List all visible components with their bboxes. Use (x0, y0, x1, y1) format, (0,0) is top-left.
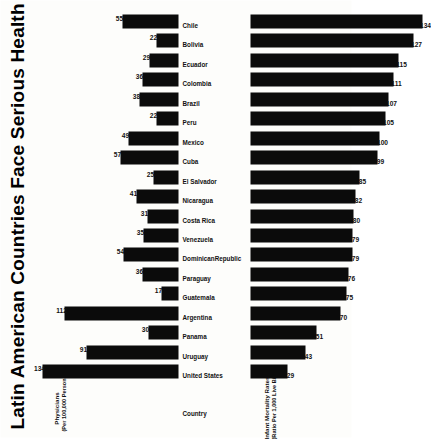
bar-value-label: 76 (347, 274, 354, 281)
bar-slot: 100 (250, 128, 430, 147)
bar-slot: 22 (36, 31, 178, 50)
category-slot: Mexico (180, 128, 246, 147)
category-label: Bolivia (182, 40, 203, 47)
bar-value-label: 36 (135, 72, 142, 79)
bar-slot: 112 (36, 303, 178, 322)
bar (148, 325, 178, 339)
bar (250, 150, 377, 164)
bar-slot: 115 (250, 50, 430, 69)
category-label: Ecuador (182, 60, 207, 67)
bar-value-label: 134 (420, 21, 431, 28)
bar-value-label: 17 (154, 286, 161, 293)
bar (42, 364, 178, 378)
bar-value-label: 49 (122, 131, 129, 138)
bar (156, 33, 178, 47)
bar (250, 189, 355, 203)
bar-slot: 76 (250, 264, 430, 283)
bar-value-label: 57 (114, 150, 121, 157)
category-label: Nicaragua (182, 196, 212, 203)
category-label: Paraguay (182, 274, 210, 281)
bar-value-label: 115 (396, 60, 407, 67)
bottom-axis-label-line2: (Ratio Per 1,000 Live Births) (270, 379, 278, 439)
category-label: Venezuela (182, 235, 212, 242)
category-label: Uruguay (182, 352, 208, 359)
bar-value-label: 79 (351, 254, 358, 261)
bar-value-label: 75 (346, 293, 353, 300)
bar-slot: 134 (250, 11, 430, 30)
bar (250, 364, 287, 378)
category-axis-header: Country (182, 409, 206, 416)
bar (250, 111, 385, 125)
category-slot: Paraguay (180, 264, 246, 283)
bar-value-label: 111 (391, 79, 401, 86)
bar-value-label: 55 (116, 14, 123, 21)
bar-value-label: 36 (135, 267, 142, 274)
top-axis-label: Physicians (Per 100,000 Persons) (52, 385, 68, 431)
category-label: Panama (182, 332, 206, 339)
bar-slot: 107 (250, 89, 430, 108)
page-title: Latin American Countries Face Serious He… (6, 0, 28, 429)
infant-mortality-chart: 2943517075767979808285991001051071111151… (250, 11, 430, 381)
bar (149, 53, 178, 67)
bar (250, 92, 388, 106)
category-label: Mexico (182, 138, 203, 145)
bar-slot: 31 (36, 206, 178, 225)
category-label: Argentina (182, 313, 211, 320)
bar-value-label: 22 (149, 33, 156, 40)
bar (120, 150, 178, 164)
bar (156, 111, 178, 125)
bar-value-label: 112 (56, 306, 67, 313)
bar (250, 345, 305, 359)
bar (142, 72, 179, 86)
category-slot: Brazil (180, 89, 246, 108)
bar-slot: 22 (36, 108, 178, 127)
bar-value-label: 99 (377, 157, 384, 164)
bar-slot: 82 (250, 186, 430, 205)
category-slot: Peru (180, 108, 246, 127)
bar (64, 306, 178, 320)
bar (250, 306, 340, 320)
category-label: El Salvador (182, 177, 216, 184)
category-label: Chile (182, 21, 197, 28)
category-label: Brazil (182, 99, 199, 106)
bar (122, 14, 178, 28)
bar (250, 267, 348, 281)
bar-value-label: 54 (117, 247, 124, 254)
category-slot: Ecuador (180, 50, 246, 69)
bar (136, 189, 178, 203)
category-label: Guatemala (182, 293, 214, 300)
bar (250, 33, 413, 47)
bar-slot: 70 (250, 303, 430, 322)
top-axis-label-line1: Physicians (52, 385, 60, 431)
bar-value-label: 91 (79, 345, 86, 352)
bar-slot: 57 (36, 147, 178, 166)
bar-slot: 111 (250, 70, 430, 89)
bar (147, 209, 178, 223)
bar (250, 14, 422, 28)
bar-slot: 51 (250, 323, 430, 342)
bar-value-label: 22 (149, 111, 156, 118)
bar-value-label: 31 (140, 209, 147, 216)
bar-value-label: 82 (355, 196, 362, 203)
bar-slot: 99 (250, 147, 430, 166)
category-slot: Guatemala (180, 284, 246, 303)
bar (86, 345, 178, 359)
bar-slot: 43 (250, 342, 430, 361)
bar-slot: 80 (250, 206, 430, 225)
bar-value-label: 51 (315, 332, 322, 339)
category-slot: El Salvador (180, 167, 246, 186)
bar-slot: 36 (36, 264, 178, 283)
category-slot: Bolivia (180, 31, 246, 50)
bar (250, 72, 393, 86)
bar-value-label: 29 (142, 53, 149, 60)
bar-value-label: 105 (382, 118, 393, 125)
category-slot: Argentina (180, 303, 246, 322)
bar-slot: 25 (36, 167, 178, 186)
bar (250, 170, 359, 184)
bar-value-label: 107 (385, 99, 396, 106)
bar-value-label: 25 (146, 170, 153, 177)
bar-value-label: 134 (34, 364, 45, 371)
bottom-axis-label: Infant Mortality Rates (Ratio Per 1,000 … (262, 379, 278, 439)
bar (250, 325, 316, 339)
